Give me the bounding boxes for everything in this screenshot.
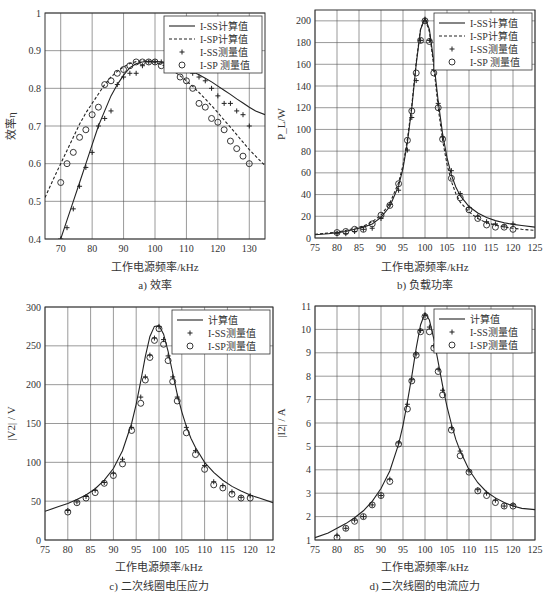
legend-label: I-SP 测量值 bbox=[200, 59, 250, 71]
y-tick-label: 0 bbox=[306, 233, 311, 244]
y-tick-label: 2 bbox=[306, 511, 311, 522]
y-tick-label: 100 bbox=[296, 124, 311, 135]
y-tick-label: 180 bbox=[296, 37, 311, 48]
y-tick-label: 8 bbox=[306, 371, 311, 382]
legend-label: I-SS测量值 bbox=[208, 327, 256, 339]
data-point bbox=[95, 104, 101, 110]
y-tick-label: 150 bbox=[26, 418, 41, 429]
y-tick-label: 200 bbox=[296, 15, 311, 26]
legend: 计算值I-SS测量值I-SP测量值 bbox=[434, 309, 532, 353]
x-tick-label: 75 bbox=[310, 544, 320, 555]
x-tick-label: 75 bbox=[40, 544, 50, 555]
caption-current-stress: d) 二次线圈的电流应力 bbox=[315, 577, 535, 593]
x-tick-label: 85 bbox=[86, 544, 96, 555]
data-point bbox=[502, 504, 507, 509]
x-tick-label: 120 bbox=[506, 242, 521, 253]
legend-label: I-SP 测量值 bbox=[470, 56, 520, 68]
legend: I-SS计算值I-SP计算值I-SS测量值I-SP 测量值 bbox=[434, 13, 532, 70]
x-tick-label: 105 bbox=[174, 544, 189, 555]
data-point bbox=[379, 493, 384, 498]
data-point bbox=[83, 127, 89, 133]
x-tick-label: 125 bbox=[266, 544, 276, 555]
x-tick-label: 115 bbox=[220, 544, 235, 555]
x-tick-label: 100 bbox=[148, 243, 163, 254]
x-axis-label-efficiency: 工作电源频率/kHz bbox=[45, 258, 265, 274]
data-point bbox=[184, 425, 189, 430]
caption-efficiency: a) 效率 bbox=[45, 276, 265, 292]
chart-efficiency: 7080901001101201300.40.50.60.70.80.91效率η… bbox=[0, 0, 275, 296]
y-tick-label: 300 bbox=[26, 302, 41, 313]
data-point bbox=[109, 108, 114, 113]
legend-label: I-SS测量值 bbox=[470, 43, 518, 55]
y-tick-label: 200 bbox=[26, 379, 41, 390]
y-axis-label: P_L/W bbox=[275, 107, 287, 139]
data-point bbox=[209, 115, 215, 121]
x-tick-label: 95 bbox=[398, 544, 408, 555]
x-tick-label: 90 bbox=[376, 544, 386, 555]
x-tick-label: 90 bbox=[376, 242, 386, 253]
data-point bbox=[138, 395, 143, 400]
data-point bbox=[96, 124, 101, 129]
x-axis-label-load-power: 工作电源频率/kHz bbox=[315, 258, 535, 274]
data-point bbox=[396, 188, 401, 193]
y-tick-label: 0.8 bbox=[29, 83, 42, 94]
y-tick-label: 0.9 bbox=[29, 45, 42, 56]
y-tick-label: 140 bbox=[296, 81, 311, 92]
y-tick-label: 0.6 bbox=[29, 158, 42, 169]
y-tick-label: 40 bbox=[301, 189, 311, 200]
x-tick-label: 110 bbox=[462, 242, 477, 253]
chart-panel-voltage-stress: 7580859095100105110115120125050100150200… bbox=[0, 296, 275, 596]
data-point bbox=[127, 71, 132, 76]
x-tick-label: 120 bbox=[243, 544, 258, 555]
x-tick-label: 125 bbox=[528, 544, 543, 555]
caption-voltage-stress: c) 二次线圈电压应力 bbox=[45, 577, 273, 593]
x-tick-label: 80 bbox=[332, 242, 342, 253]
y-tick-label: 7 bbox=[306, 394, 311, 405]
y-tick-label: 60 bbox=[301, 167, 311, 178]
data-point bbox=[196, 100, 202, 106]
y-tick-label: 11 bbox=[301, 301, 311, 312]
y-tick-label: 250 bbox=[26, 340, 41, 351]
legend-label: I-SS测量值 bbox=[200, 46, 248, 58]
y-tick-label: 120 bbox=[296, 102, 311, 113]
y-axis-label: |I2| / A bbox=[275, 408, 287, 438]
chart-load-power: 7580859095100105110115120125020406080100… bbox=[275, 0, 549, 296]
y-tick-label: 1 bbox=[306, 535, 311, 546]
chart-panel-efficiency: 7080901001101201300.40.50.60.70.80.91效率η… bbox=[0, 0, 275, 296]
data-point bbox=[202, 104, 208, 110]
x-tick-label: 130 bbox=[242, 243, 257, 254]
data-point bbox=[511, 221, 516, 226]
x-tick-label: 75 bbox=[310, 242, 320, 253]
x-tick-label: 100 bbox=[152, 544, 167, 555]
data-point bbox=[241, 112, 246, 117]
x-tick-label: 80 bbox=[87, 243, 97, 254]
y-tick-label: 20 bbox=[301, 211, 311, 222]
data-point bbox=[215, 93, 220, 98]
y-tick-label: 100 bbox=[26, 457, 41, 468]
x-tick-label: 95 bbox=[131, 544, 141, 555]
y-tick-label: 160 bbox=[296, 59, 311, 70]
data-point bbox=[77, 134, 83, 140]
y-tick-label: 1 bbox=[36, 8, 41, 19]
data-point bbox=[146, 59, 151, 64]
legend: 计算值I-SS测量值I-SP测量值 bbox=[172, 310, 270, 354]
x-tick-label: 100 bbox=[418, 544, 433, 555]
data-point bbox=[70, 149, 76, 155]
y-tick-label: 0 bbox=[36, 535, 41, 546]
x-tick-label: 80 bbox=[63, 544, 73, 555]
data-point bbox=[108, 78, 114, 84]
caption-load-power: b) 负载功率 bbox=[315, 276, 535, 292]
y-tick-label: 80 bbox=[301, 146, 311, 157]
y-tick-label: 10 bbox=[301, 324, 311, 335]
chart-panel-load-power: 7580859095100105110115120125020406080100… bbox=[275, 0, 549, 296]
x-tick-label: 110 bbox=[197, 544, 212, 555]
x-tick-label: 105 bbox=[440, 242, 455, 253]
legend-label: I-SP计算值 bbox=[200, 33, 248, 45]
data-point bbox=[234, 146, 240, 152]
y-tick-label: 9 bbox=[306, 347, 311, 358]
data-point bbox=[134, 71, 139, 76]
data-point bbox=[138, 400, 144, 406]
data-point bbox=[228, 101, 233, 106]
data-point bbox=[209, 86, 214, 91]
data-point bbox=[227, 138, 233, 144]
